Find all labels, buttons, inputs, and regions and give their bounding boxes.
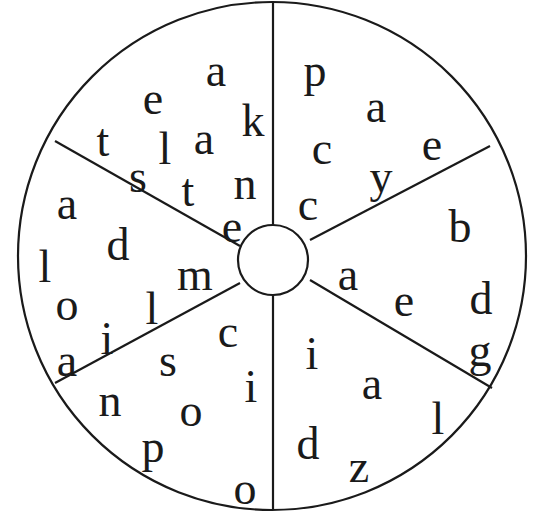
letters-layer: eatlakstnepaceycbaedgialdzcsinopoadlmoli… bbox=[39, 45, 493, 514]
wheel-letter: c bbox=[218, 306, 238, 357]
wheel-letter: d bbox=[470, 273, 493, 324]
wheel-letter: m bbox=[177, 249, 213, 300]
wheel-letter: k bbox=[242, 95, 265, 146]
wheel-letter: e bbox=[222, 201, 242, 252]
wheel-letter: l bbox=[39, 241, 52, 292]
wheel-letter: i bbox=[306, 328, 319, 379]
wheel-outline bbox=[18, 2, 526, 510]
wheel-letter: d bbox=[297, 418, 320, 469]
segment-bottom-left: csinopo bbox=[99, 306, 258, 514]
wheel-letter: p bbox=[304, 45, 327, 96]
wheel-letter: a bbox=[57, 335, 77, 386]
wheel-letter: a bbox=[366, 81, 386, 132]
wheel-letter: i bbox=[245, 361, 258, 412]
wheel-letter: l bbox=[146, 283, 159, 334]
wheel-letter: s bbox=[159, 335, 177, 386]
wheel-letter: a bbox=[57, 178, 77, 229]
wheel-letter: a bbox=[206, 45, 226, 96]
wheel-letter: c bbox=[312, 123, 332, 174]
wheel-letter: l bbox=[432, 393, 445, 444]
wheel-letter: e bbox=[422, 119, 442, 170]
wheel-letter: y bbox=[370, 151, 393, 202]
wheel-letter: z bbox=[349, 441, 369, 492]
wheel-letter: g bbox=[469, 325, 492, 376]
wheel-letter: e bbox=[143, 73, 163, 124]
wheel-letter: a bbox=[194, 113, 214, 164]
wheel-letter: t bbox=[97, 115, 110, 166]
segment-top-right: paceyc bbox=[298, 45, 442, 230]
wheel-letter: i bbox=[101, 313, 114, 364]
wheel-letter: e bbox=[394, 275, 414, 326]
wheel-letter: c bbox=[298, 179, 318, 230]
wheel-letter: d bbox=[107, 219, 130, 270]
letter-wheel: eatlakstnepaceycbaedgialdzcsinopoadlmoli… bbox=[0, 0, 542, 527]
wheel-letter: p bbox=[142, 421, 165, 472]
center-circle bbox=[238, 225, 308, 295]
wheel-letter: t bbox=[182, 165, 195, 216]
wheel-letter: o bbox=[56, 279, 79, 330]
segment-bottom-right: ialdz bbox=[297, 328, 445, 492]
wheel-letter: n bbox=[99, 375, 122, 426]
segment-right: baedg bbox=[338, 201, 493, 376]
wheel-letter: s bbox=[129, 151, 147, 202]
wheel-letter: a bbox=[338, 249, 358, 300]
wheel-letter: b bbox=[449, 201, 472, 252]
wheel-letter: a bbox=[362, 358, 382, 409]
wheel-letter: o bbox=[180, 385, 203, 436]
wheel-letter: o bbox=[234, 463, 257, 514]
wheel-letter: l bbox=[159, 123, 172, 174]
